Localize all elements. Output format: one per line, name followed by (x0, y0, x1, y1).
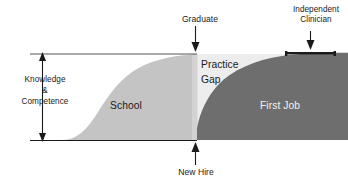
independent-clinician-bracket-bar (285, 52, 336, 54)
y-axis-label-line-3: Competence (22, 97, 69, 106)
first-job-label: First Job (250, 101, 310, 112)
school-area (62, 55, 192, 141)
graduate-arrowhead (192, 42, 200, 52)
practice-gap-label-line-1: Practice (201, 59, 239, 70)
independent-clinician-arrowhead (307, 40, 315, 50)
school-label: School (98, 101, 154, 112)
independent-clinician-bracket-tick-right (334, 51, 336, 56)
practice-gap-diagram: Knowledge&Competence School PracticeGap … (0, 0, 348, 184)
new-hire-arrowhead (192, 142, 200, 152)
practice-gap-label-line-2: Gap (201, 74, 221, 85)
graduate-label: Graduate (170, 14, 230, 25)
new-hire-label: New Hire (166, 167, 226, 178)
independent-clinician-label-line-2: Clinician (300, 15, 331, 24)
y-axis-label: Knowledge&Competence (14, 74, 76, 107)
graduate-divider-strip (192, 54, 198, 140)
y-axis-label-line-2: & (42, 86, 48, 95)
independent-clinician-label-line-1: Independent (293, 5, 339, 14)
y-axis-arrowhead-up (39, 52, 46, 61)
practice-gap-label: PracticeGap (201, 58, 251, 87)
y-axis-label-line-1: Knowledge (25, 75, 66, 84)
independent-clinician-label: IndependentClinician (285, 5, 347, 26)
independent-clinician-bracket-tick-left (285, 51, 287, 56)
